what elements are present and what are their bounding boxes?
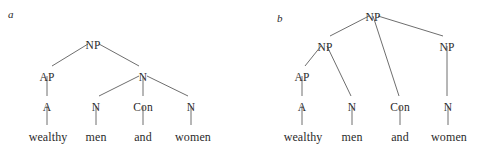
tree-node-word-women: women — [175, 131, 211, 143]
tree-panel-a: a NPAPNANConNwealthymenandwomen — [0, 0, 240, 154]
tree-node-con: Con — [133, 102, 152, 114]
tree-node-root-np: NP — [86, 40, 101, 52]
tree-node-n-left: N — [92, 102, 100, 114]
tree-node-np-right: NP — [440, 42, 455, 54]
tree-node-n-coord: N — [139, 72, 147, 84]
tree-node-ap: AP — [295, 72, 310, 84]
tree-node-word-wealthy: wealthy — [29, 131, 68, 143]
tree-node-word-men: men — [342, 131, 363, 143]
tree-node-a: A — [298, 102, 306, 114]
tree-node-n-right: N — [187, 102, 195, 114]
tree-node-root-np: NP — [366, 12, 381, 24]
tree-node-n-left: N — [348, 102, 356, 114]
tree-nodes-b: NPNPNPAPANConNwealthymenandwomen — [240, 0, 480, 154]
syntax-tree-figure: a NPAPNANConNwealthymenandwomen b NPNPNP… — [0, 0, 480, 154]
tree-node-a: A — [43, 102, 51, 114]
tree-node-ap: AP — [40, 72, 55, 84]
tree-node-word-men: men — [86, 131, 107, 143]
tree-node-word-wealthy: wealthy — [284, 131, 323, 143]
tree-node-np-left: NP — [318, 42, 333, 54]
tree-panel-b: b NPNPNPAPANConNwealthymenandwomen — [240, 0, 480, 154]
tree-node-con: Con — [390, 102, 409, 114]
tree-node-word-women: women — [431, 131, 467, 143]
tree-nodes-a: NPAPNANConNwealthymenandwomen — [0, 0, 240, 154]
tree-node-word-and: and — [134, 131, 152, 143]
tree-node-n-right: N — [444, 102, 452, 114]
tree-node-word-and: and — [391, 131, 409, 143]
